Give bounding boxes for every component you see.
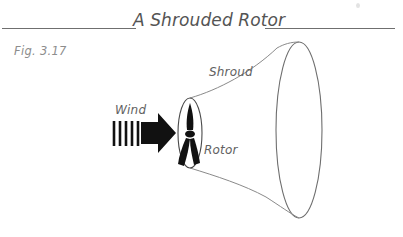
wind-arrowhead [141, 113, 176, 153]
wind-label: Wind [115, 103, 146, 117]
rotor-hub [185, 131, 195, 138]
wind-arrow [114, 113, 176, 153]
figure-page: A Shrouded Rotor Fig. 3.17 [0, 0, 403, 237]
rotor-label: Rotor [204, 143, 238, 157]
rotor-blades [178, 103, 200, 166]
scan-artifact-speck [356, 3, 360, 8]
shroud-label: Shroud [209, 65, 253, 79]
rotor-blade-upper [187, 103, 194, 130]
rotor-blade-lower-right [190, 138, 200, 165]
shroud-outlet-ellipse [276, 42, 322, 218]
shrouded-rotor-diagram [0, 0, 403, 237]
